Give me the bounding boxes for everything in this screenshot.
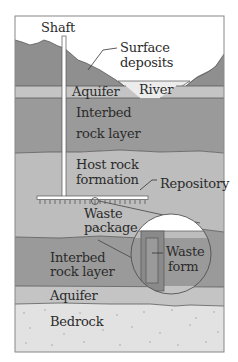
label-interbed-upper-2: rock layer — [76, 126, 141, 141]
label-interbed-upper-1: Interbed — [76, 105, 131, 120]
label-river: River — [139, 82, 173, 97]
label-interbed-lower-2: rock layer — [50, 264, 115, 279]
label-surface-deposits-2: deposits — [120, 55, 173, 70]
label-waste-package-1: Waste — [84, 206, 123, 221]
label-host-rock-1: Host rock — [76, 157, 139, 172]
label-aquifer-upper: Aquifer — [72, 84, 120, 99]
label-waste-form-1: Waste — [166, 244, 205, 259]
label-interbed-lower-1: Interbed — [50, 250, 105, 265]
label-waste-package-2: package — [84, 220, 138, 235]
label-bedrock: Bedrock — [50, 314, 103, 329]
label-repository: Repository — [160, 176, 229, 191]
label-waste-form-2: form — [168, 259, 198, 274]
label-surface-deposits-1: Surface — [120, 40, 170, 55]
label-aquifer-lower: Aquifer — [50, 288, 98, 303]
label-shaft: Shaft — [41, 20, 75, 35]
label-host-rock-2: formation — [76, 172, 139, 187]
shaft — [62, 36, 66, 197]
